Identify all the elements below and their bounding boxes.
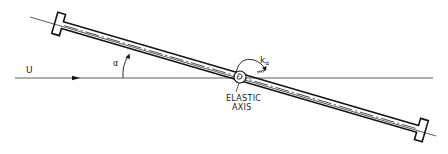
freestream-arrow-icon — [72, 76, 80, 80]
elastic-axis-leader — [236, 83, 239, 92]
alpha-label: α — [113, 59, 119, 68]
elastic-axis-label-line2: AXIS — [232, 103, 252, 112]
alpha-arc — [123, 56, 128, 78]
spring-label: kα — [260, 55, 269, 66]
elastic-axis-label-line1: ELASTIC — [226, 94, 261, 103]
spring-ground-icon — [257, 70, 265, 74]
aeroelastic-section-diagram: U α kα ELASTIC AXIS — [0, 0, 448, 154]
airfoil-beam — [52, 12, 429, 141]
freestream-label: U — [26, 65, 33, 75]
alpha-arrow-icon — [126, 54, 131, 60]
chord-line — [30, 17, 436, 136]
